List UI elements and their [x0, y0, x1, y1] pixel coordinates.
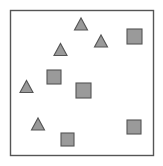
- square-marker: [76, 83, 91, 98]
- square-marker: [61, 133, 74, 146]
- square-marker: [127, 29, 142, 44]
- scatter-plot: [0, 0, 163, 166]
- square-marker: [127, 120, 141, 134]
- figure-root: [0, 0, 163, 166]
- square-marker: [47, 70, 61, 84]
